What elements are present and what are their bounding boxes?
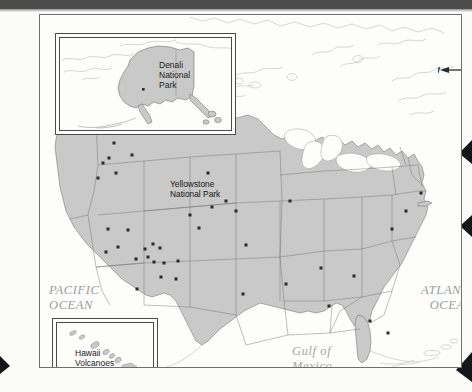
park-marker [127, 229, 130, 232]
park-marker [113, 142, 116, 145]
park-marker [144, 248, 147, 251]
label-hawaii-volcanoes-national-park: Hawaii Volcanoes National Park [75, 348, 126, 368]
park-marker [160, 276, 163, 279]
park-marker [289, 200, 292, 203]
map-screenshot: .land{fill:#c9c9c9;stroke:#6f6f6f;stroke… [0, 0, 472, 392]
inset-alaska: Denali National Park [55, 33, 236, 135]
park-marker [420, 192, 423, 195]
park-marker [328, 305, 331, 308]
park-marker [117, 246, 120, 249]
scan-artifact-top-fade [0, 9, 472, 12]
compass-west-arrow [440, 67, 449, 73]
park-marker [102, 162, 105, 165]
park-marker [353, 275, 356, 278]
park-marker [105, 251, 108, 254]
park-marker [152, 243, 155, 246]
park-marker [320, 267, 323, 270]
park-marker [387, 332, 390, 335]
park-marker [225, 200, 228, 203]
park-marker [153, 261, 156, 264]
label-denali-national-park: Denali National Park [159, 60, 190, 90]
park-marker [391, 228, 394, 231]
park-marker [235, 210, 238, 213]
park-marker [97, 177, 100, 180]
park-marker [245, 244, 248, 247]
park-marker [189, 214, 192, 217]
park-marker [136, 288, 139, 291]
label-atlantic-ocean: ATLANTIC OCEAN [421, 283, 462, 313]
scan-artifact-edge-wedge-4 [0, 356, 10, 374]
map-frame: .land{fill:#c9c9c9;stroke:#6f6f6f;stroke… [39, 14, 462, 368]
inset-hawaii: Hawaii Volcanoes National Park [52, 318, 158, 368]
park-marker [211, 206, 214, 209]
park-marker [207, 172, 210, 175]
park-marker [405, 210, 408, 213]
park-marker [159, 247, 162, 250]
label-gulf-of-mexico: Gulf of Mexico [292, 344, 332, 368]
park-marker [147, 256, 150, 259]
park-marker [285, 283, 288, 286]
park-marker [198, 227, 201, 230]
park-marker [135, 258, 138, 261]
park-marker [115, 172, 118, 175]
label-yellowstone-national-park: Yellowstone National Park [170, 180, 220, 199]
park-marker [175, 278, 178, 281]
park-marker [242, 293, 245, 296]
park-marker [131, 154, 134, 157]
park-marker [369, 320, 372, 323]
park-marker [177, 260, 180, 263]
inset-alaska-inner [59, 37, 232, 131]
park-marker [107, 228, 110, 231]
park-marker [108, 157, 111, 160]
scan-artifact-top-bar [0, 0, 472, 9]
label-pacific-ocean: PACIFIC OCEAN [49, 283, 100, 313]
compass-rose: N S E W [438, 31, 462, 109]
park-marker [163, 262, 166, 265]
alaska-map-svg [60, 38, 232, 131]
